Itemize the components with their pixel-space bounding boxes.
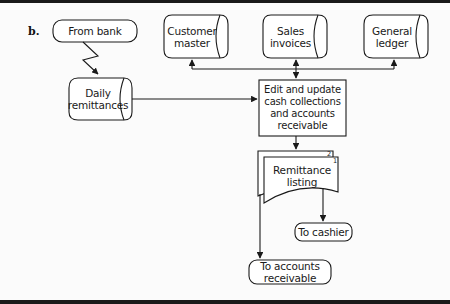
bottom-border xyxy=(0,300,450,304)
general-ledger-label: General ledger xyxy=(364,15,420,58)
copy-number-1: 1 xyxy=(333,157,337,165)
remittance-listing-label: Remittance listing xyxy=(272,163,332,189)
sales-invoices-label: Sales invoices xyxy=(263,15,318,58)
daily-remittances-label: Daily remittances xyxy=(69,78,127,120)
process-label: Edit and update cash collections and acc… xyxy=(259,80,346,136)
from-bank-label: From bank xyxy=(53,20,137,42)
customer-master-label: Customer master xyxy=(164,15,220,58)
to-ar-label: To accounts receivable xyxy=(249,260,331,284)
to-cashier-label: To cashier xyxy=(295,223,352,241)
copy-number-2: 2 xyxy=(327,150,331,158)
communication-link-arrow xyxy=(83,42,98,74)
